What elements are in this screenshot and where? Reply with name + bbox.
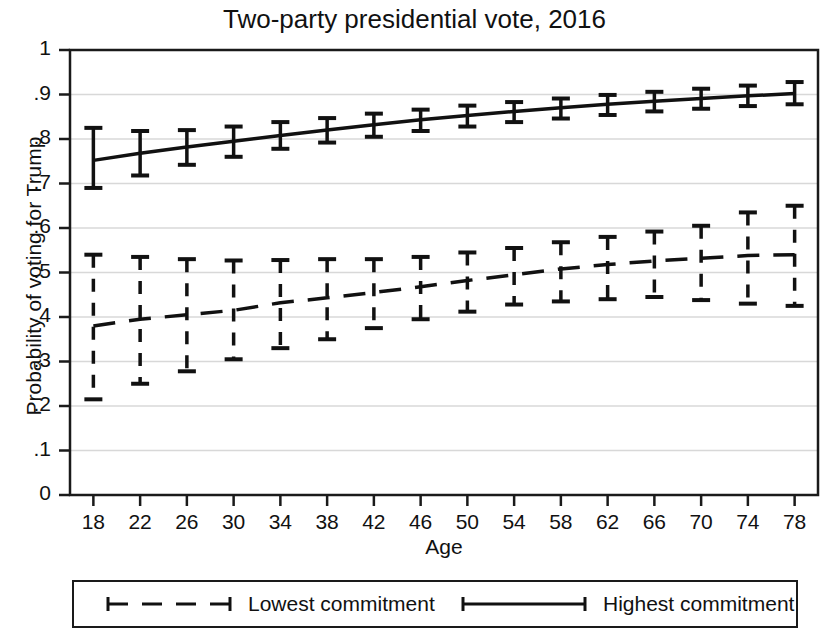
chart-figure: Two-party presidential vote, 2016 Probab… xyxy=(0,0,829,637)
x-tick-label: 18 xyxy=(70,510,116,534)
legend-item-highest-commitment: Highest commitment xyxy=(459,582,794,626)
legend-label-lowest-commitment: Lowest commitment xyxy=(248,592,435,616)
x-tick-label: 78 xyxy=(772,510,818,534)
x-tick-label: 66 xyxy=(631,510,677,534)
x-tick-label: 38 xyxy=(304,510,350,534)
error-bar xyxy=(365,259,383,328)
error-bar xyxy=(692,226,710,300)
legend-swatch-solid-line xyxy=(459,593,589,615)
y-tick-label: .5 xyxy=(11,259,51,283)
legend-label-highest-commitment: Highest commitment xyxy=(603,592,794,616)
y-tick-label: .9 xyxy=(11,81,51,105)
x-tick-label: 26 xyxy=(164,510,210,534)
x-tick-label: 22 xyxy=(117,510,163,534)
y-tick-label: 0 xyxy=(11,481,51,505)
x-tick-label: 58 xyxy=(538,510,584,534)
series-line xyxy=(93,94,794,161)
error-bar xyxy=(739,212,757,303)
y-tick-label: .8 xyxy=(11,125,51,149)
y-tick-label: .2 xyxy=(11,392,51,416)
y-tick-label: .3 xyxy=(11,348,51,372)
y-tick-label: .4 xyxy=(11,303,51,327)
y-tick-label: .7 xyxy=(11,170,51,194)
x-tick-label: 50 xyxy=(444,510,490,534)
legend-item-lowest-commitment: Lowest commitment xyxy=(104,582,435,626)
x-tick-label: 46 xyxy=(398,510,444,534)
error-bar xyxy=(645,232,663,297)
x-tick-label: 62 xyxy=(585,510,631,534)
x-axis-title: Age xyxy=(70,535,818,559)
error-bar xyxy=(599,237,617,299)
error-bar xyxy=(84,255,102,400)
y-tick-label: .1 xyxy=(11,437,51,461)
legend-swatch-dashed-line xyxy=(104,593,234,615)
legend: Lowest commitment Highest commitment xyxy=(72,580,798,628)
x-tick-label: 74 xyxy=(725,510,771,534)
y-tick-label: .6 xyxy=(11,214,51,238)
x-tick-label: 70 xyxy=(678,510,724,534)
x-tick-label: 42 xyxy=(351,510,397,534)
y-tick-label: 1 xyxy=(11,36,51,60)
series-highest-commitment xyxy=(84,82,803,188)
x-tick-label: 54 xyxy=(491,510,537,534)
series-line xyxy=(93,255,794,326)
series-lowest-commitment xyxy=(84,206,803,400)
x-tick-label: 30 xyxy=(211,510,257,534)
x-tick-label: 34 xyxy=(257,510,303,534)
